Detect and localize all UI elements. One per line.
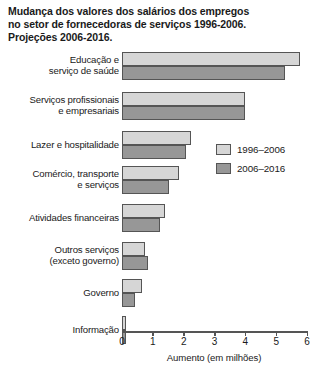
bar-1996-2006 xyxy=(122,92,245,106)
bar-1996-2006 xyxy=(122,166,179,180)
x-axis-tick-label: 6 xyxy=(297,336,315,347)
bar-2006-2016 xyxy=(122,180,170,194)
x-axis-tick-label: 3 xyxy=(205,336,225,347)
category-label: Atividades financeiras xyxy=(0,212,119,223)
legend-item: 1996–2006 xyxy=(216,141,285,157)
x-axis-title: Aumento (em milhões) xyxy=(122,352,307,363)
category-label: Informação xyxy=(0,324,119,335)
legend-label: 2006–2016 xyxy=(237,163,285,174)
bar-1996-2006 xyxy=(122,52,301,66)
legend-swatch-icon xyxy=(216,144,231,155)
category-label: Governo xyxy=(0,287,119,298)
category-label: Serviços profissionais e empresariais xyxy=(0,94,119,117)
category-label: Educação e serviço de saúde xyxy=(0,54,119,77)
bar-2006-2016 xyxy=(122,66,285,80)
bar-2006-2016 xyxy=(122,218,161,232)
x-axis-tick-label: 5 xyxy=(266,336,286,347)
bar-1996-2006 xyxy=(122,242,145,256)
legend: 1996–2006 2006–2016 xyxy=(216,141,285,179)
plot-area: Educação e serviço de saúde Serviços pro… xyxy=(0,52,315,322)
x-axis-tick-label: 4 xyxy=(235,336,255,347)
x-axis-tick-label: 1 xyxy=(143,336,163,347)
bar-1996-2006 xyxy=(122,131,191,145)
bar-2006-2016 xyxy=(122,145,187,159)
legend-item: 2006–2016 xyxy=(216,160,285,176)
bar-2006-2016 xyxy=(122,106,245,120)
chart-title: Mudança dos valores dos salários dos emp… xyxy=(8,5,308,45)
category-label: Comércio, transporte e serviços xyxy=(0,168,119,191)
bar-1996-2006 xyxy=(122,316,127,330)
bar-1996-2006 xyxy=(122,279,142,293)
legend-label: 1996–2006 xyxy=(237,144,285,155)
category-label: Lazer e hospitalidade xyxy=(0,139,119,150)
bar-1996-2006 xyxy=(122,204,165,218)
bar-2006-2016 xyxy=(122,293,136,307)
bar-2006-2016 xyxy=(122,256,148,270)
legend-swatch-icon xyxy=(216,163,231,174)
category-label: Outros serviços (exceto governo) xyxy=(0,244,119,267)
x-axis-tick-label: 0 xyxy=(112,336,132,347)
bar-chart-figure: Mudança dos valores dos salários dos emp… xyxy=(0,0,315,373)
x-axis-tick-label: 2 xyxy=(174,336,194,347)
